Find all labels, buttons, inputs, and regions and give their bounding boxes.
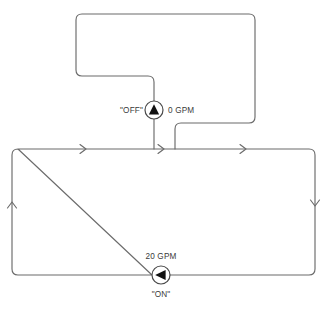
upper-pump-symbol[interactable] bbox=[145, 101, 163, 119]
upper-pump-state-label: "OFF" bbox=[120, 106, 143, 115]
pump-loop-diagram: "OFF" 0 GPM 20 GPM "ON" bbox=[0, 0, 328, 312]
lower-pump-flow-label: 20 GPM bbox=[146, 252, 177, 261]
upper-loop-left-branch-pipe bbox=[76, 14, 255, 149]
lower-pump-symbol[interactable] bbox=[152, 266, 170, 284]
upper-pump-flow-label: 0 GPM bbox=[168, 106, 194, 115]
lower-pump-state-label: "ON" bbox=[152, 290, 171, 299]
schematic-canvas: "OFF" 0 GPM 20 GPM "ON" bbox=[0, 0, 328, 312]
